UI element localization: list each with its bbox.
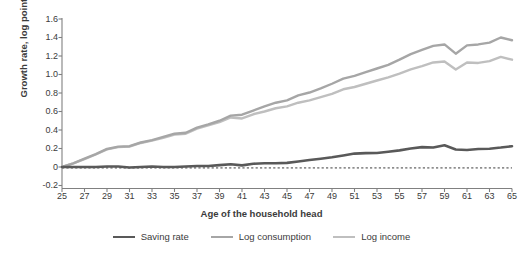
legend-label: Log consumption (239, 231, 311, 242)
x-tick-label: 31 (120, 191, 140, 201)
x-tick-label: 37 (187, 191, 207, 201)
legend-item-saving-rate[interactable]: Saving rate (113, 231, 189, 242)
x-axis-title: Age of the household head (0, 208, 523, 219)
series-line-log-income (62, 57, 512, 167)
x-tick-label: 65 (502, 191, 522, 201)
x-tick-label: 39 (210, 191, 230, 201)
x-tick-label: 49 (322, 191, 342, 201)
legend-swatch-icon (113, 236, 135, 238)
x-tick-label: 51 (345, 191, 365, 201)
x-tick-label: 61 (457, 191, 477, 201)
x-tick-label: 25 (52, 191, 72, 201)
legend-swatch-icon (211, 236, 233, 238)
x-tick-label: 43 (255, 191, 275, 201)
legend-label: Saving rate (141, 231, 189, 242)
x-tick-label: 33 (142, 191, 162, 201)
chart-legend: Saving rateLog consumptionLog income (0, 231, 523, 242)
plot-canvas (0, 0, 523, 259)
chart-figure: Growth rate, log points 1.61.41.21.00.80… (0, 0, 523, 259)
legend-item-log-income[interactable]: Log income (333, 231, 410, 242)
x-tick-label: 35 (165, 191, 185, 201)
x-tick-label: 45 (277, 191, 297, 201)
x-tick-label: 59 (435, 191, 455, 201)
x-tick-label: 53 (367, 191, 387, 201)
x-tick-label: 55 (390, 191, 410, 201)
x-tick-label: 63 (480, 191, 500, 201)
legend-item-log-consumption[interactable]: Log consumption (211, 231, 311, 242)
x-tick-label: 29 (97, 191, 117, 201)
x-tick-label: 47 (300, 191, 320, 201)
series-line-saving-rate (62, 145, 512, 167)
legend-label: Log income (361, 231, 410, 242)
legend-swatch-icon (333, 236, 355, 238)
x-tick-label: 57 (412, 191, 432, 201)
x-tick-label: 27 (75, 191, 95, 201)
x-tick-label: 41 (232, 191, 252, 201)
